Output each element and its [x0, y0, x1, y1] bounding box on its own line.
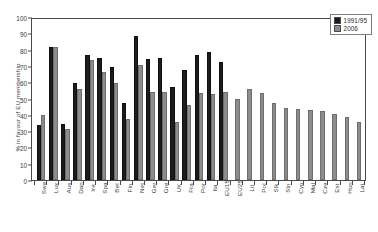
bar-group: [71, 19, 83, 180]
y-tick-label: 90: [0, 31, 31, 38]
bar-group: [278, 19, 290, 180]
x-label-gre: Gre: [156, 186, 168, 226]
x-label-spa: Spa: [95, 186, 107, 226]
bar-lat-2006: [357, 122, 361, 180]
bar-lit-2006: [247, 89, 251, 180]
bar-gre-2006: [162, 92, 166, 180]
x-label-sln: Sln: [278, 186, 290, 226]
bar-group: [205, 19, 217, 180]
bar-lux-2006: [53, 47, 57, 180]
y-tick-label: 0: [0, 178, 31, 185]
x-label-eu15: EU15: [217, 186, 229, 226]
legend-swatch-2006: [334, 25, 341, 32]
bar-cze-2006: [320, 111, 324, 180]
bar-group: [229, 19, 241, 180]
bar-group: [59, 19, 71, 180]
y-tick-label: 100: [0, 15, 31, 22]
bar-eu25-2006: [235, 99, 239, 181]
bar-group: [314, 19, 326, 180]
bar-group: [132, 19, 144, 180]
x-label-cyp: Cyp: [291, 186, 303, 226]
legend: 1991/95 2006: [330, 14, 372, 35]
y-tick-label: 80: [0, 47, 31, 54]
bar-group: [120, 19, 132, 180]
bar-group: [326, 19, 338, 180]
bar-fin-2006: [126, 119, 130, 180]
x-label-ger: Ger: [144, 186, 156, 226]
bar-group: [144, 19, 156, 180]
x-label-ire: Ire: [83, 186, 95, 226]
y-tick-label: 70: [0, 63, 31, 70]
bar-group: [290, 19, 302, 180]
bar-group: [96, 19, 108, 180]
x-label-lux: Lux: [46, 186, 58, 226]
x-label-lit: Lit: [242, 186, 254, 226]
plot-area: [31, 18, 366, 181]
y-tick-label: 20: [0, 145, 31, 152]
bar-swe-2006: [41, 115, 45, 180]
x-label-eu25: EU25: [230, 186, 242, 226]
bar-por-2006: [199, 93, 203, 180]
x-axis-labels: SweLuxAusDanIreSpaBelFinNetGerGreUKFraPo…: [31, 186, 366, 226]
x-label-mal: Mal: [303, 186, 315, 226]
bar-ita-2006: [211, 94, 215, 180]
y-tick-label: 30: [0, 129, 31, 136]
bar-eu15-2006: [223, 92, 227, 180]
bar-est-2006: [332, 114, 336, 180]
bar-group: [169, 19, 181, 180]
bar-series-container: [32, 19, 365, 180]
bar-group: [181, 19, 193, 180]
x-label-slk: Slk: [266, 186, 278, 226]
bar-group: [339, 19, 351, 180]
x-label-bel: Bel: [107, 186, 119, 226]
x-label-uk: UK: [168, 186, 180, 226]
x-label-ita: Ita: [205, 186, 217, 226]
x-label-pol: Pol: [254, 186, 266, 226]
bar-slk-2006: [272, 103, 276, 180]
bar-group: [254, 19, 266, 180]
x-label-swe: Swe: [34, 186, 46, 226]
bar-cyp-2006: [296, 109, 300, 180]
legend-item-series1: 1991/95: [334, 17, 367, 24]
y-tick-label: 10: [0, 161, 31, 168]
bar-ger-2006: [150, 92, 154, 180]
x-label-net: Net: [132, 186, 144, 226]
y-tick-label: 40: [0, 112, 31, 119]
bar-group: [156, 19, 168, 180]
bar-aus-2006: [65, 129, 69, 180]
bar-net-2006: [138, 65, 142, 180]
bar-group: [108, 19, 120, 180]
bar-mal-2006: [308, 110, 312, 180]
x-label-lat: Lat: [352, 186, 364, 226]
bar-group: [84, 19, 96, 180]
bar-group: [266, 19, 278, 180]
bar-bel-2006: [114, 83, 118, 180]
bar-fra-2006: [187, 105, 191, 180]
x-label-fin: Fin: [120, 186, 132, 226]
bar-group: [302, 19, 314, 180]
bar-uk-2006: [175, 122, 179, 180]
y-axis-title: % in favour of EU membership: [14, 33, 21, 183]
bar-group: [351, 19, 363, 180]
x-label-dan: Dan: [71, 186, 83, 226]
x-label-hun: Hun: [339, 186, 351, 226]
legend-label-1991-95: 1991/95: [344, 17, 367, 24]
x-label-est: Est: [327, 186, 339, 226]
bar-ire-2006: [90, 60, 94, 180]
x-label-fra: Fra: [181, 186, 193, 226]
bar-dan-2006: [77, 89, 81, 180]
y-tick-label: 50: [0, 96, 31, 103]
legend-label-2006: 2006: [344, 25, 358, 32]
bar-group: [193, 19, 205, 180]
y-tick-label: 60: [0, 80, 31, 87]
legend-swatch-1991-95: [334, 17, 341, 24]
x-label-aus: Aus: [58, 186, 70, 226]
bar-group: [47, 19, 59, 180]
x-label-text: Lat: [358, 184, 365, 193]
bar-group: [217, 19, 229, 180]
bar-group: [35, 19, 47, 180]
x-tick-mark: [34, 181, 35, 185]
bar-sln-2006: [284, 108, 288, 180]
bar-hun-2006: [345, 117, 349, 180]
bar-group: [241, 19, 253, 180]
